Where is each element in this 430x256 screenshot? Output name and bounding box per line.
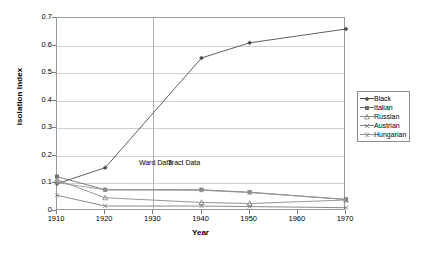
y-tick-label: 0.6 xyxy=(4,41,52,49)
legend-label: Hungarian xyxy=(374,130,406,139)
legend-label: Austrian xyxy=(374,121,400,130)
x-tick-label: 1920 xyxy=(84,214,124,223)
legend-label: Black xyxy=(374,94,391,103)
x-tick-label: 1960 xyxy=(277,214,317,223)
legend-symbol-diamond xyxy=(360,94,374,103)
isolation-index-line-chart: 00.10.20.30.40.50.60.7 Isolation Index W… xyxy=(0,0,430,256)
y-tick-label: 0.1 xyxy=(4,178,52,186)
asterisk-marker xyxy=(365,132,369,137)
legend-label: Italian xyxy=(374,103,393,112)
y-tick-label: 0.4 xyxy=(4,96,52,104)
legend-symbol-cross xyxy=(360,121,374,130)
y-tick-label: 0 xyxy=(4,206,52,214)
legend-item-hungarian[interactable]: Hungarian xyxy=(360,130,406,139)
y-tick-label: 0.7 xyxy=(4,13,52,21)
x-tick-label: 1930 xyxy=(132,214,172,223)
x-tick-mark xyxy=(297,210,298,214)
y-tick-label: 0.2 xyxy=(4,151,52,159)
diamond-marker xyxy=(344,27,349,32)
x-tick-label: 1970 xyxy=(325,214,365,223)
x-tick-mark xyxy=(104,210,105,214)
x-tick-mark xyxy=(201,210,202,214)
annotation-label: Tract Data xyxy=(168,159,200,167)
x-tick-mark xyxy=(249,210,250,214)
series-line xyxy=(57,29,346,184)
legend-item-russian[interactable]: Russian xyxy=(360,112,406,121)
legend: BlackItalianRussianAustrianHungarian xyxy=(357,91,410,142)
x-axis-label: Year xyxy=(56,228,345,237)
cross-marker xyxy=(365,124,369,128)
series-lines xyxy=(57,18,346,211)
legend-item-austrian[interactable]: Austrian xyxy=(360,121,406,130)
x-axis-ticks: 1910192019301940195019601970 xyxy=(56,210,345,230)
x-tick-label: 1950 xyxy=(229,214,269,223)
series-black xyxy=(55,27,349,186)
square-marker xyxy=(365,106,369,110)
series-hungarian xyxy=(55,180,348,202)
y-tick-label: 0.3 xyxy=(4,123,52,131)
diamond-marker xyxy=(365,96,370,101)
x-tick-label: 1910 xyxy=(36,214,76,223)
x-tick-mark xyxy=(56,210,57,214)
y-axis-ticks: 00.10.20.30.40.50.60.7 xyxy=(0,17,52,210)
x-tick-label: 1940 xyxy=(181,214,221,223)
diamond-marker xyxy=(247,41,252,46)
x-tick-mark xyxy=(345,210,346,214)
plot-area: Ward DataTract Data xyxy=(56,17,345,210)
legend-symbol-triangle xyxy=(360,112,374,121)
y-axis-label: Isolation Index xyxy=(15,37,24,157)
y-tick-label: 0.5 xyxy=(4,68,52,76)
x-tick-mark xyxy=(152,210,153,214)
triangle-marker xyxy=(365,114,370,119)
legend-label: Russian xyxy=(374,112,399,121)
legend-item-italian[interactable]: Italian xyxy=(360,103,406,112)
legend-symbol-square xyxy=(360,103,374,112)
legend-symbol-asterisk xyxy=(360,130,374,139)
legend-item-black[interactable]: Black xyxy=(360,94,406,103)
